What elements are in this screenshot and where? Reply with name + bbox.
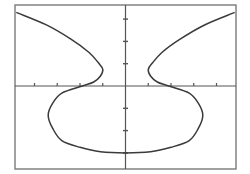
plot-area (0, 0, 250, 174)
